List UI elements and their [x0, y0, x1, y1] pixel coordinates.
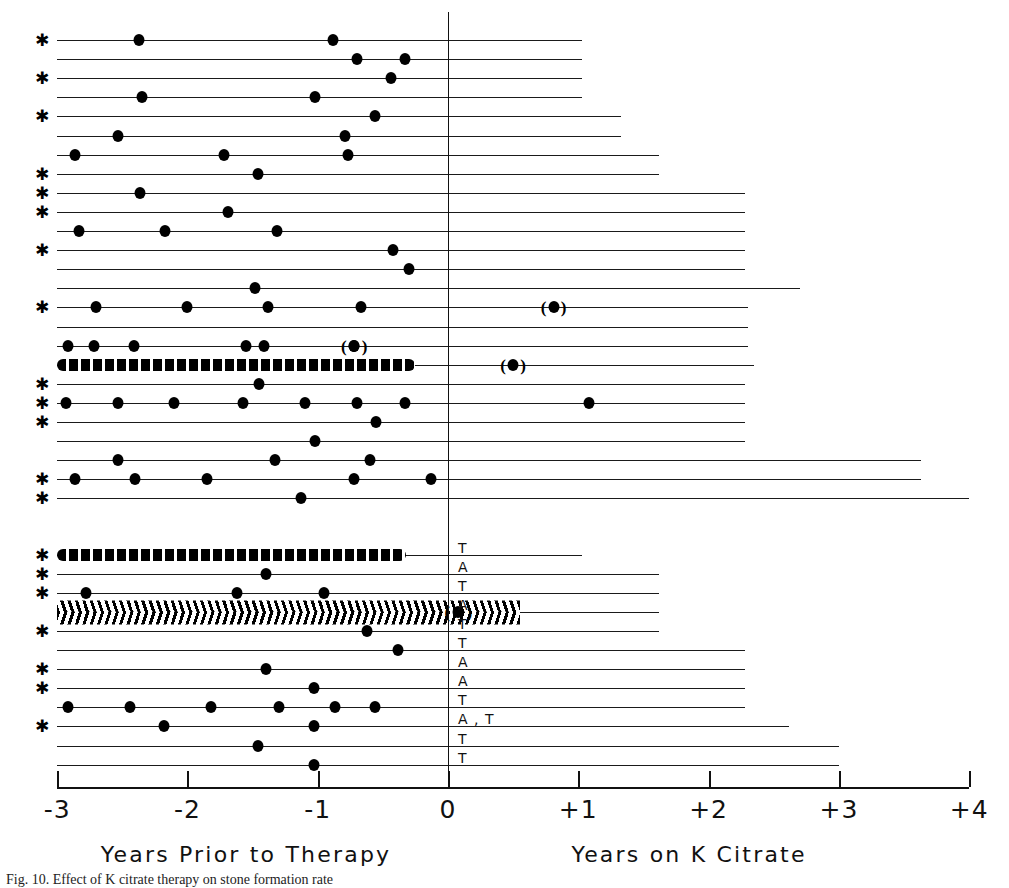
stone-event-dot: [238, 397, 249, 409]
patient-timeline[interactable]: [57, 574, 659, 575]
stone-event-dot: [272, 225, 283, 237]
stone-event-dot: [319, 587, 330, 599]
patient-timeline[interactable]: [57, 479, 921, 480]
asterisk-marker: ✱: [35, 471, 49, 488]
patient-timeline[interactable]: [57, 346, 748, 347]
stone-event-dot: [362, 625, 373, 637]
stone-event-dot: [259, 340, 270, 352]
patient-timeline[interactable]: [57, 155, 659, 156]
axis-tick-label: +1: [559, 795, 598, 824]
patient-timeline[interactable]: [57, 212, 745, 213]
patient-timeline[interactable]: [57, 250, 745, 251]
stone-event-dot: [158, 720, 169, 732]
treatment-tag: T: [458, 692, 468, 708]
stone-event-dot: [403, 263, 414, 275]
patient-timeline[interactable]: [57, 669, 745, 670]
patient-timeline[interactable]: [57, 288, 800, 289]
axis-tick-label: -3: [44, 795, 71, 824]
stone-event-dot: [355, 301, 366, 313]
asterisk-marker: ✱: [35, 184, 49, 201]
asterisk-marker: ✱: [35, 32, 49, 49]
stone-event-dot: [205, 701, 216, 713]
stone-event-dot: [70, 149, 81, 161]
stone-event-dot: [222, 206, 233, 218]
stone-event-dot: [250, 282, 261, 294]
stone-event-dot: [252, 740, 263, 752]
axis-tick: [187, 771, 189, 787]
patient-timeline[interactable]: [57, 174, 659, 175]
patient-timeline[interactable]: [57, 78, 582, 79]
patient-timeline[interactable]: [57, 327, 748, 328]
stone-event-dot: [342, 149, 353, 161]
stone-event-dot: [241, 340, 252, 352]
stone-event-dot: [329, 701, 340, 713]
stone-event-dot: [548, 301, 559, 313]
asterisk-marker: ✱: [35, 584, 49, 601]
patient-timeline[interactable]: [57, 593, 659, 594]
stone-event-dot: [426, 473, 437, 485]
asterisk-marker: ✱: [35, 490, 49, 507]
stone-event-dot: [263, 301, 274, 313]
asterisk-marker: ✱: [35, 203, 49, 220]
stone-event-dot: [70, 473, 81, 485]
x-axis-title-right: Years on K Citrate: [571, 842, 806, 867]
patient-timeline[interactable]: [57, 631, 659, 632]
stone-event-dot: [400, 397, 411, 409]
patient-timeline[interactable]: [57, 688, 745, 689]
stone-event-dot: [328, 34, 339, 46]
stone-event-dot: [273, 701, 284, 713]
stone-event-dot: [349, 473, 360, 485]
stone-event-dot: [260, 663, 271, 675]
patient-timeline[interactable]: [57, 116, 621, 117]
stone-event-dot: [295, 492, 306, 504]
stone-event-dot: [169, 397, 180, 409]
paren-left: (: [341, 337, 347, 354]
figure-caption: Fig. 10. Effect of K citrate therapy on …: [6, 872, 1006, 888]
asterisk-marker: ✱: [35, 108, 49, 125]
stone-event-dot: [125, 701, 136, 713]
paren-right: ): [362, 337, 368, 354]
treatment-tag: T: [458, 616, 468, 632]
asterisk-marker: ✱: [35, 622, 49, 639]
asterisk-marker: ✱: [35, 242, 49, 259]
paren-left: (: [500, 356, 506, 373]
patient-timeline[interactable]: [57, 422, 745, 423]
patient-timeline[interactable]: [57, 193, 745, 194]
patient-timeline[interactable]: [57, 460, 921, 461]
axis-tick-label: +4: [950, 795, 989, 824]
stone-event-dot: [231, 587, 242, 599]
stone-event-dot: [385, 72, 396, 84]
axis-tick-label: +3: [819, 795, 858, 824]
patient-timeline[interactable]: [57, 441, 745, 442]
treatment-tag: T: [458, 578, 468, 594]
asterisk-marker: ✱: [35, 299, 49, 316]
asterisk-marker: ✱: [35, 414, 49, 431]
paren-right: ): [561, 299, 567, 316]
stone-event-dot: [113, 454, 124, 466]
patient-timeline[interactable]: [57, 498, 969, 499]
asterisk-marker: ✱: [35, 565, 49, 582]
axis-tick-label: -2: [174, 795, 201, 824]
stone-event-dot: [113, 397, 124, 409]
axis-tick: [318, 771, 320, 787]
stone-event-dot: [134, 34, 145, 46]
axis-tick: [969, 771, 971, 787]
treatment-tag: T: [458, 731, 468, 747]
stone-event-dot: [113, 130, 124, 142]
asterisk-marker: ✱: [35, 718, 49, 735]
stone-event-dot: [218, 149, 229, 161]
asterisk-marker: ✱: [35, 70, 49, 87]
patient-timeline[interactable]: [57, 707, 745, 708]
stone-event-dot: [182, 301, 193, 313]
stone-event-dot: [310, 435, 321, 447]
patient-timeline[interactable]: [57, 384, 745, 385]
stone-event-dot: [308, 682, 319, 694]
patient-timeline[interactable]: [57, 269, 745, 270]
patient-timeline[interactable]: [57, 59, 582, 60]
treatment-tag: T: [458, 540, 468, 556]
patient-timeline[interactable]: [57, 307, 748, 308]
dense-event-run: [57, 549, 406, 561]
axis-tick: [709, 771, 711, 787]
stone-event-dot: [74, 225, 85, 237]
asterisk-marker: ✱: [35, 661, 49, 678]
